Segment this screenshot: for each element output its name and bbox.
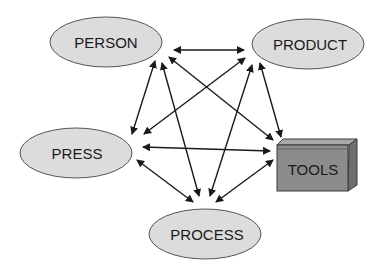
node-tools: TOOLS: [277, 139, 357, 191]
edge-person-press: [132, 61, 155, 134]
node-product-label: PRODUCT: [273, 36, 347, 53]
node-press: PRESS: [20, 128, 132, 178]
node-person-label: PERSON: [74, 34, 137, 51]
edge-product-press: [144, 58, 245, 134]
edges: [132, 50, 281, 202]
node-tools-label: TOOLS: [288, 161, 339, 178]
node-process: PROCESS: [149, 209, 261, 259]
node-press-label: PRESS: [52, 145, 103, 162]
tools-box-side: [348, 139, 357, 191]
edge-product-process: [210, 65, 252, 196]
edge-press-tools: [143, 147, 270, 151]
relationship-diagram: PERSON PRODUCT PRESS TOOLS PROCESS: [0, 0, 381, 273]
edge-product-tools: [260, 63, 281, 137]
node-person: PERSON: [50, 17, 162, 67]
edge-person-tools: [169, 57, 273, 140]
tools-box-top: [277, 139, 357, 145]
edge-process-tools: [216, 160, 273, 202]
edge-press-process: [137, 160, 193, 202]
node-process-label: PROCESS: [170, 226, 243, 243]
edge-person-process: [162, 63, 199, 196]
node-product: PRODUCT: [252, 19, 364, 69]
